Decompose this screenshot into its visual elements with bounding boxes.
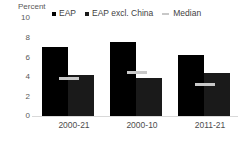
bar-group-2000-10	[110, 18, 166, 116]
legend-item-eap-excl-china[interactable]: EAP excl. China	[85, 9, 153, 18]
y-tick-10: 10	[4, 14, 30, 22]
y-tick-6: 6	[4, 54, 30, 62]
bar-chart: Percent EAP EAP excl. China Median 10 8 …	[0, 0, 244, 141]
x-tick-label-0: 2000-21	[42, 120, 106, 130]
x-tick-label-2: 2011-21	[178, 120, 242, 130]
bar-eap-excl-china[interactable]	[204, 73, 230, 116]
legend-label-median: Median	[173, 9, 201, 18]
y-tick-4: 4	[4, 73, 30, 81]
y-tick-0: 0	[4, 112, 30, 120]
legend-swatch-dash-icon	[162, 13, 169, 15]
legend-label-eap: EAP	[59, 9, 76, 18]
y-tick-8: 8	[4, 34, 30, 42]
bar-group-2000-21	[42, 18, 98, 116]
median-marker	[59, 77, 79, 80]
median-marker	[195, 83, 215, 86]
bar-eap[interactable]	[110, 42, 136, 116]
legend-swatch-square-icon	[85, 12, 89, 16]
y-tick-2: 2	[4, 93, 30, 101]
legend-swatch-square-icon	[52, 12, 56, 16]
bar-eap-excl-china[interactable]	[68, 75, 94, 116]
plot-area	[32, 18, 238, 116]
legend-item-median[interactable]: Median	[162, 9, 201, 18]
legend-label-eap-excl-china: EAP excl. China	[92, 9, 153, 18]
legend-item-eap[interactable]: EAP	[52, 9, 76, 18]
x-axis-line	[32, 116, 238, 117]
x-tick-label-1: 2000-10	[110, 120, 174, 130]
bar-eap[interactable]	[42, 47, 68, 116]
median-marker	[127, 71, 147, 74]
bar-eap-excl-china[interactable]	[136, 78, 162, 116]
bar-group-2011-21	[178, 18, 234, 116]
y-axis-tick-labels: 10 8 6 4 2 0	[0, 0, 30, 141]
